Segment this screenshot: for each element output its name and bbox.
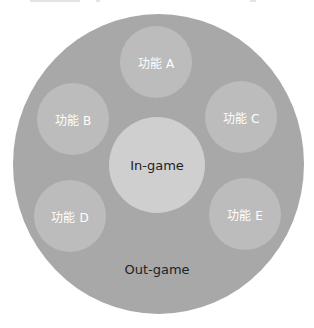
feature-d-label: 功能 D [51, 208, 89, 225]
feature-d-circle: 功能 D [34, 180, 106, 252]
feature-e-label: 功能 E [227, 206, 263, 223]
feature-a-label: 功能 A [138, 54, 175, 71]
cropped-text-remnant [30, 0, 80, 2]
feature-b-label: 功能 B [55, 111, 92, 128]
feature-c-circle: 功能 C [205, 81, 277, 153]
in-game-label: In-game [130, 158, 184, 173]
feature-c-label: 功能 C [223, 109, 260, 126]
feature-e-circle: 功能 E [209, 178, 281, 250]
out-game-label: Out-game [0, 262, 314, 277]
cropped-text-remnant [250, 0, 256, 2]
in-game-circle: In-game [109, 117, 205, 213]
cropped-text-remnant [96, 0, 100, 2]
feature-b-circle: 功能 B [37, 83, 109, 155]
feature-a-circle: 功能 A [120, 26, 192, 98]
